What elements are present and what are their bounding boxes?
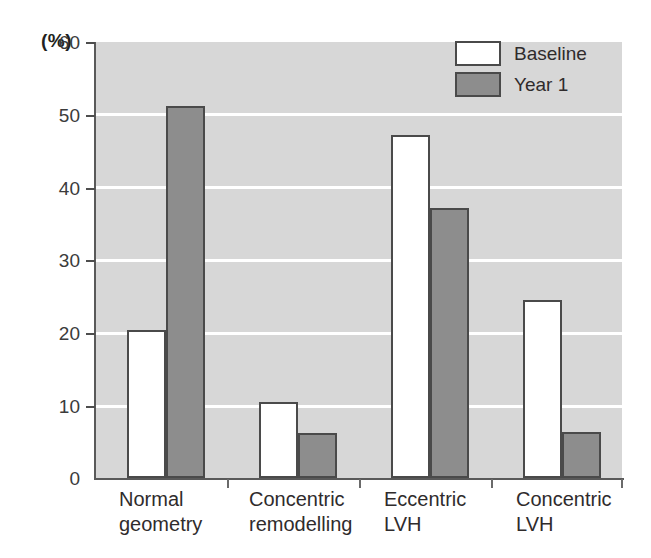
y-tick-30: [86, 260, 95, 262]
bar-year1-normal-geometry[interactable]: [166, 106, 205, 478]
legend: Baseline Year 1: [455, 38, 625, 100]
y-tick-20: [86, 333, 95, 335]
legend-label-baseline: Baseline: [514, 44, 587, 63]
y-tick-label-0: 0: [34, 469, 80, 488]
y-tick-label-20: 20: [34, 324, 80, 343]
legend-item-baseline: Baseline: [455, 38, 625, 69]
y-tick-60: [86, 42, 95, 44]
bar-year1-concentric-lvh[interactable]: [562, 432, 601, 478]
y-tick-label-60: 60: [34, 33, 80, 52]
y-tick-50: [86, 115, 95, 117]
y-tick-40: [86, 188, 95, 190]
legend-item-year1: Year 1: [455, 69, 625, 100]
bar-baseline-concentric-lvh[interactable]: [523, 300, 562, 478]
y-tick-label-30: 30: [34, 251, 80, 270]
bar-baseline-eccentric-lvh[interactable]: [391, 135, 430, 478]
legend-label-year1: Year 1: [514, 75, 568, 94]
x-category-label-concentric-lvh: Concentric LVH: [516, 487, 651, 537]
bar-year1-concentric-remodelling[interactable]: [298, 433, 337, 478]
bar-baseline-concentric-remodelling[interactable]: [259, 402, 298, 478]
legend-swatch-baseline-icon: [455, 41, 501, 66]
y-tick-label-50: 50: [34, 106, 80, 125]
x-category-label-concentric-remodelling: Concentric remodelling: [249, 487, 399, 537]
x-category-label-eccentric-lvh: Eccentric LVH: [384, 487, 514, 537]
bar-baseline-normal-geometry[interactable]: [127, 330, 166, 478]
x-category-label-normal-geometry: Normal geometry: [119, 487, 239, 537]
bar-chart-figure: (%) Baseline Year 1: [0, 0, 651, 558]
plot-area: Baseline Year 1: [96, 42, 622, 478]
y-tick-label-40: 40: [34, 179, 80, 198]
y-tick-label-10: 10: [34, 397, 80, 416]
y-tick-10: [86, 406, 95, 408]
bar-year1-eccentric-lvh[interactable]: [430, 208, 469, 478]
legend-swatch-year1-icon: [455, 72, 501, 97]
